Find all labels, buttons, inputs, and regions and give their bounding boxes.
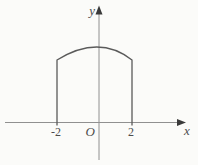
origin-label: O bbox=[86, 124, 96, 139]
y-axis-arrowhead-icon bbox=[96, 6, 103, 15]
tick-label-neg2: -2 bbox=[51, 125, 61, 139]
math-figure: y x O -2 2 bbox=[0, 0, 198, 165]
y-axis-label: y bbox=[87, 3, 95, 18]
region-outline-curve bbox=[57, 47, 132, 126]
figure-canvas: y x O -2 2 bbox=[0, 0, 198, 165]
x-axis-label: x bbox=[183, 123, 190, 138]
tick-label-pos2: 2 bbox=[128, 125, 134, 139]
